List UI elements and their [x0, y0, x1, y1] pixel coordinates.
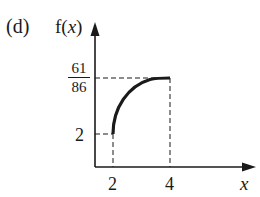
function-curve	[113, 78, 170, 134]
y-axis-label: f(x)	[55, 17, 82, 36]
y-tick-bottom: 2	[75, 126, 84, 144]
x-tick-4: 4	[165, 175, 174, 193]
dashed-guides	[95, 78, 170, 167]
y-axis-arrow-icon	[91, 22, 100, 36]
x-tick-2: 2	[108, 175, 117, 193]
y-axis-label-suffix: )	[76, 16, 82, 37]
function-graph	[0, 0, 260, 197]
x-axis-label: x	[240, 174, 248, 193]
fraction-numerator: 61	[67, 61, 91, 77]
fraction-denominator: 86	[67, 78, 91, 95]
y-tick-top-fraction: 61 86	[67, 61, 91, 95]
y-axis-label-prefix: f(	[55, 16, 68, 37]
x-axis-arrow-icon	[242, 163, 256, 172]
y-axis-label-var: x	[68, 16, 76, 37]
panel-label: (d)	[6, 16, 29, 36]
